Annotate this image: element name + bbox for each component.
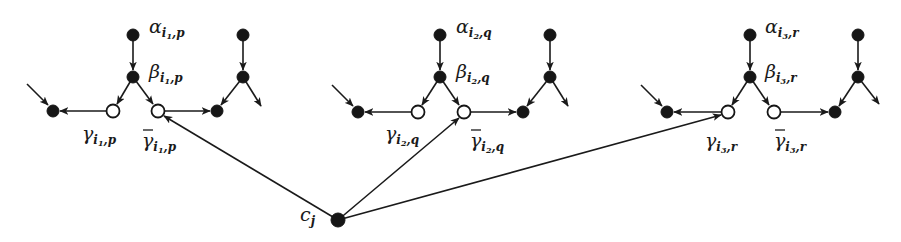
alpha-label-1: αi1,p [149, 15, 185, 41]
alpha-label-2: αi2,q [456, 15, 492, 41]
beta-node-3 [744, 71, 756, 83]
alpha-node-1 [127, 29, 139, 41]
right-top-node-1 [237, 29, 249, 41]
reduction-gadget-diagram: αi1,p βi1,p γi1,p γi1,p αi2,q [0, 0, 901, 242]
variable-gadget-1: αi1,p βi1,p γi1,p γi1,p [27, 15, 261, 155]
gammabar-label-3: γi3,r [774, 129, 808, 155]
right-mid-node-3 [852, 71, 864, 83]
variable-gadget-3: αi3,r βi3,r γi3,r γi3,r [641, 15, 879, 155]
gamma-label-1: γi1,p [82, 122, 117, 148]
left-sink-node-3 [661, 106, 673, 118]
edge-clause-to-gammabar-1 [164, 116, 338, 220]
beta-node-1 [127, 71, 139, 83]
right-sink-node-1 [211, 105, 223, 117]
beta-label-2: βi2,q [455, 60, 490, 86]
alpha-node-3 [744, 29, 756, 41]
left-sink-node-2 [352, 106, 364, 118]
right-mid-node-1 [237, 71, 249, 83]
gammabar-label-2: γi2,q [470, 129, 504, 155]
gamma-label-2: γi2,q [385, 122, 419, 148]
gamma-node-2 [412, 106, 425, 119]
beta-label-1: βi1,p [148, 60, 183, 86]
clause-label: cj [300, 203, 316, 228]
edge-in-leftsink-3 [641, 85, 662, 106]
beta-node-2 [434, 71, 446, 83]
gammabar-node-2 [458, 106, 471, 119]
gammabar-node-3 [768, 106, 781, 119]
right-mid-node-2 [544, 71, 556, 83]
edge-in-leftsink-1 [27, 84, 48, 105]
gamma-node-1 [107, 105, 120, 118]
gamma-node-3 [722, 106, 735, 119]
alpha-label-3: αi3,r [765, 15, 800, 41]
left-sink-node-1 [47, 105, 59, 117]
gamma-label-3: γi3,r [705, 129, 739, 155]
variable-gadget-2: αi2,q βi2,q γi2,q γi2,q [332, 15, 568, 155]
right-sink-node-2 [517, 106, 529, 118]
clause-gadget: cj [164, 115, 721, 228]
gammabar-label-1: γi1,p [142, 129, 177, 155]
right-top-node-3 [852, 29, 864, 41]
clause-node [331, 213, 345, 227]
gammabar-node-1 [152, 105, 165, 118]
alpha-node-2 [434, 29, 446, 41]
beta-label-3: βi3,r [764, 60, 798, 86]
edge-in-leftsink-2 [332, 85, 353, 106]
right-top-node-2 [544, 29, 556, 41]
right-sink-node-3 [829, 106, 841, 118]
